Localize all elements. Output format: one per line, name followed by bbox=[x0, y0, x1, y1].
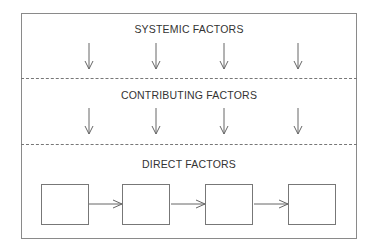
down-arrow-icon bbox=[85, 43, 93, 69]
arrows-layer bbox=[0, 0, 375, 249]
down-arrow-icon bbox=[85, 108, 93, 134]
down-arrow-icon bbox=[152, 43, 160, 69]
down-arrow-icon bbox=[294, 43, 302, 69]
right-arrow-icon bbox=[171, 200, 205, 208]
right-arrow-icon bbox=[254, 200, 288, 208]
down-arrow-icon bbox=[152, 108, 160, 134]
down-arrow-icon bbox=[220, 43, 228, 69]
right-arrow-icon bbox=[89, 200, 122, 208]
down-arrow-icon bbox=[294, 108, 302, 134]
down-arrow-icon bbox=[220, 108, 228, 134]
